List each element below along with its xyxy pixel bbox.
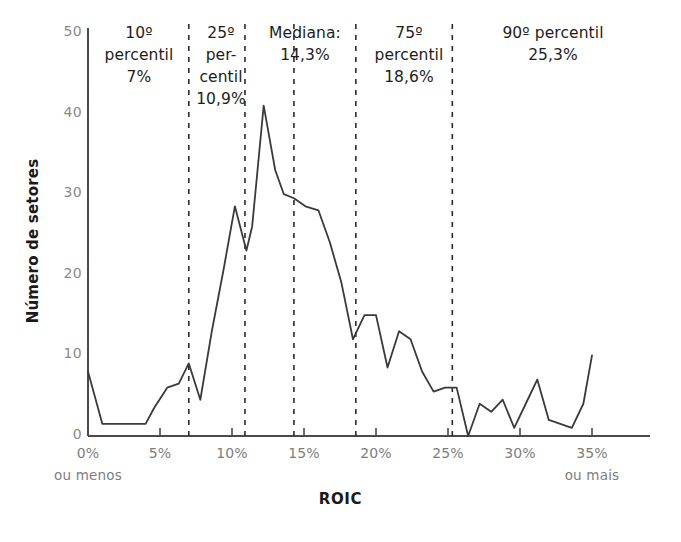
x-axis-tick-label: 25%	[413, 445, 483, 461]
x-axis-sub-label: ou menos	[33, 467, 143, 483]
y-axis-tick-label: 50	[48, 23, 82, 39]
annotation-text-line: Mediana:	[252, 22, 358, 44]
y-axis-tick-label: 10	[48, 345, 82, 361]
percentile-annotation: 25ºper-centil10,9%	[194, 22, 248, 110]
annotation-text-line: centil	[194, 66, 248, 88]
x-axis-tick-label: 35%	[557, 445, 627, 461]
chart-container: Número de setores ROIC 01020304050 0%5%1…	[0, 0, 681, 542]
annotation-text-line: percentil	[360, 44, 458, 66]
x-axis-title: ROIC	[0, 490, 681, 508]
annotation-text-line: 14,3%	[252, 44, 358, 66]
annotation-text-line: 25º	[194, 22, 248, 44]
annotation-text-line: 7%	[86, 66, 192, 88]
y-axis-tick-label: 20	[48, 265, 82, 281]
y-axis-tick-label: 0	[48, 426, 82, 442]
percentile-annotation: 75ºpercentil18,6%	[360, 22, 458, 88]
x-axis-tick-label: 5%	[125, 445, 195, 461]
x-axis-sub-label: ou mais	[537, 467, 647, 483]
y-axis-title: Número de setores	[24, 146, 42, 336]
annotation-text-line: 10º	[86, 22, 192, 44]
x-axis-tick-label: 0%	[53, 445, 123, 461]
annotation-text-line: 18,6%	[360, 66, 458, 88]
annotation-text-line: 25,3%	[466, 44, 640, 66]
percentile-annotation: 90º percentil25,3%	[466, 22, 640, 66]
data-line-series	[88, 106, 592, 436]
y-axis-tick-label: 40	[48, 104, 82, 120]
annotation-text-line: percentil	[86, 44, 192, 66]
x-axis-ticks	[88, 428, 592, 436]
annotation-text-line: 90º percentil	[466, 22, 640, 44]
x-axis-tick-label: 30%	[485, 445, 555, 461]
x-axis-tick-label: 10%	[197, 445, 267, 461]
x-axis-tick-label: 15%	[269, 445, 339, 461]
y-axis-tick-label: 30	[48, 184, 82, 200]
annotation-text-line: 75º	[360, 22, 458, 44]
annotation-text-line: 10,9%	[194, 88, 248, 110]
annotation-text-line: per-	[194, 44, 248, 66]
x-axis-tick-label: 20%	[341, 445, 411, 461]
percentile-annotation: 10ºpercentil7%	[86, 22, 192, 88]
percentile-annotation: Mediana:14,3%	[252, 22, 358, 66]
